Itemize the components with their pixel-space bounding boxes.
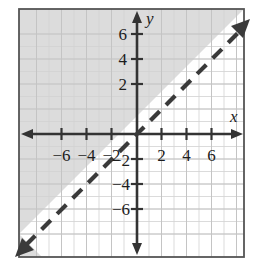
y-tick-label-6: 6	[119, 25, 128, 44]
y-tick-label-neg2: −2	[112, 151, 130, 170]
y-tick-label-neg6: −6	[112, 200, 130, 219]
x-tick-label-neg6: −6	[52, 146, 70, 165]
inequality-graph-figure: −6 −4 −2 2 4 6 6 4 2 −2 −4 −6 y x	[0, 0, 261, 266]
x-tick-label-neg4: −4	[77, 146, 96, 165]
y-tick-label-neg4: −4	[112, 175, 131, 194]
x-tick-label-2: 2	[157, 146, 166, 165]
y-tick-label-4: 4	[119, 50, 128, 69]
y-axis-label: y	[144, 9, 154, 28]
x-axis-label: x	[229, 107, 238, 126]
coordinate-plane: −6 −4 −2 2 4 6 6 4 2 −2 −4 −6 y x	[0, 0, 261, 266]
x-tick-label-6: 6	[207, 146, 216, 165]
y-tick-label-2: 2	[119, 75, 128, 94]
x-tick-label-4: 4	[182, 146, 191, 165]
